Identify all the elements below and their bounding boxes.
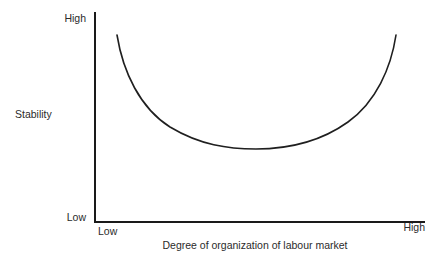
y-axis-tick-label-high: High <box>0 12 86 24</box>
y-axis-tick-label-low: Low <box>0 211 86 223</box>
x-axis-tick-label-low: Low <box>98 225 117 237</box>
y-axis-title: Stability <box>15 108 52 120</box>
chart-figure: High Low Stability Low High Degree of or… <box>0 0 432 262</box>
x-axis-tick-label-high: High <box>335 221 425 233</box>
stability-curve <box>117 35 396 149</box>
y-axis-line <box>94 12 96 223</box>
x-axis-title: Degree of organization of labour market <box>100 239 410 251</box>
